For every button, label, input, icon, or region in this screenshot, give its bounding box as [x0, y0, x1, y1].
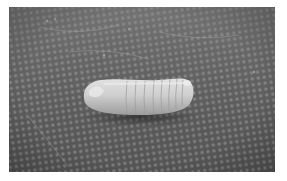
larva-photo [9, 7, 275, 172]
photo-canvas [9, 7, 275, 172]
larva [84, 79, 194, 115]
photo-figure [0, 0, 287, 181]
